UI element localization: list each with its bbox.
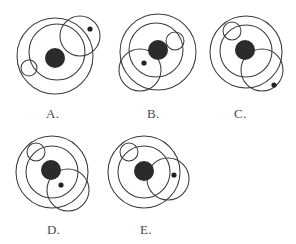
speck-dot — [271, 82, 276, 87]
speck-dot — [171, 172, 176, 177]
speck-dot — [87, 26, 92, 31]
option-figure-d[interactable] — [10, 128, 106, 220]
satellite-small — [223, 22, 241, 40]
option-figure-e[interactable] — [102, 128, 198, 220]
option-label-e[interactable]: E. — [140, 222, 152, 238]
option-label-d[interactable]: D. — [47, 222, 60, 238]
speck-dot — [141, 60, 146, 65]
option-figure-b[interactable] — [110, 6, 204, 102]
core-dot — [148, 40, 168, 60]
option-figure-a[interactable] — [8, 6, 106, 102]
satellite-large — [147, 158, 189, 200]
answer-options-panel: A.B.C.D.E. — [0, 0, 296, 244]
option-label-c[interactable]: C. — [234, 106, 247, 122]
satellite-small — [120, 143, 138, 161]
option-label-a[interactable]: A. — [46, 106, 59, 122]
option-label-b[interactable]: B. — [147, 106, 160, 122]
speck-dot — [58, 182, 63, 187]
option-figure-c[interactable] — [204, 6, 296, 102]
core-dot — [41, 160, 61, 180]
core-dot — [45, 48, 65, 68]
core-dot — [235, 40, 255, 60]
core-dot — [134, 161, 154, 181]
